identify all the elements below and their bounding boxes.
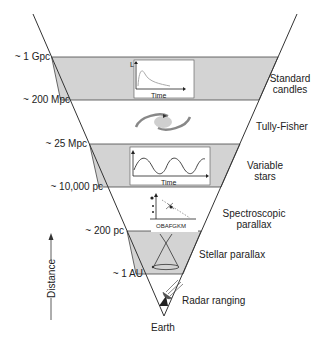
distance-marker-10000pc: ~ 10,000 pc [0, 181, 103, 192]
earth-label: Earth [151, 322, 175, 333]
method-variable-stars: Variable stars [230, 160, 300, 182]
distance-marker-25mpc: ~ 25 Mpc [0, 138, 87, 149]
distance-axis-label: Distance [46, 258, 57, 300]
inset-axis-time-2: Time [161, 177, 176, 188]
distance-marker-1au: ~ 1 AU [0, 268, 143, 279]
hr-diagram-icon: OBAFGKM [150, 190, 198, 232]
method-stellar-parallax: Stellar parallax [199, 249, 265, 260]
radar-dish-icon [159, 280, 183, 306]
hr-axis-label: OBAFGKM [156, 223, 186, 229]
method-spectroscopic-parallax: Spectroscopic parallax [214, 208, 294, 230]
distance-marker-200mpc: ~ 200 Mpc [0, 94, 70, 105]
distance-marker-200pc: ~ 200 pc [0, 225, 124, 236]
method-tully-fisher: Tully-Fisher [250, 121, 314, 132]
spiral-galaxy-icon [136, 114, 190, 130]
distance-marker-1gpc: ~ 1 Gpc [0, 51, 50, 62]
method-radar-ranging: Radar ranging [182, 295, 245, 306]
method-standard-candles: Standard candles [260, 73, 320, 95]
inset-axis-time-1: Time [151, 90, 166, 101]
inset-axis-l: L [130, 59, 134, 70]
